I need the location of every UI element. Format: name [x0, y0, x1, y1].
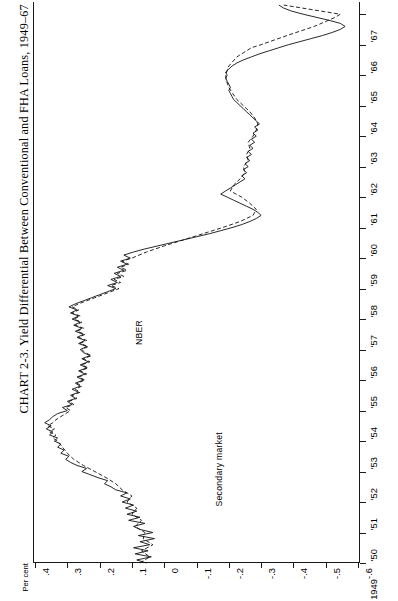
time-axis-tick-label: '50	[368, 549, 381, 561]
value-axis-tick	[197, 563, 198, 568]
value-axis-tick-label: .2	[105, 568, 116, 594]
time-axis-tick-label: '67	[368, 30, 381, 42]
time-axis-tick-label: 1949	[368, 579, 381, 600]
series-line-nber	[45, 5, 345, 563]
value-axis-tick	[229, 563, 230, 568]
time-axis-tick-label: '63	[368, 152, 381, 164]
value-axis-tick	[132, 563, 133, 568]
time-axis-tick	[360, 563, 366, 564]
value-axis-tick	[358, 563, 359, 568]
time-axis-tick	[360, 289, 366, 290]
time-axis-tick-label: '59	[368, 274, 381, 286]
value-axis-tick-label: -.2	[234, 568, 245, 594]
time-axis-tick	[360, 411, 366, 412]
time-axis-tick	[360, 106, 366, 107]
time-axis-tick	[360, 136, 366, 137]
time-axis-tick	[360, 380, 366, 381]
time-axis-tick	[360, 167, 366, 168]
time-axis-tick	[360, 441, 366, 442]
time-axis-tick-label: '64	[368, 122, 381, 134]
value-axis-tick	[261, 563, 262, 568]
time-axis-tick-label: '52	[368, 488, 381, 500]
value-axis-tick	[100, 563, 101, 568]
time-axis-tick-label: '62	[368, 183, 381, 195]
time-axis-tick-label: '56	[368, 366, 381, 378]
time-axis-tick-label: '66	[368, 61, 381, 73]
time-axis-tick-label: '54	[368, 427, 381, 439]
plot-area: .4.3.2.10-.1-.2-.3-.4-.5-.6 1949'50'51'5…	[33, 2, 360, 563]
time-axis-tick	[360, 350, 366, 351]
time-axis-tick	[360, 319, 366, 320]
time-axis-tick	[360, 502, 366, 503]
time-axis-tick	[360, 197, 366, 198]
time-axis-tick	[360, 533, 366, 534]
time-axis-tick-label: '51	[368, 518, 381, 530]
value-axis-tick-label: .3	[72, 568, 83, 594]
time-axis-tick-label: '55	[368, 396, 381, 408]
series-label-nber: NBER	[134, 320, 144, 345]
value-axis-tick	[326, 563, 327, 568]
series-layer	[33, 2, 360, 563]
value-axis-tick-label: 0	[169, 568, 180, 594]
series-label-secondary-market: Secondary market	[214, 432, 224, 507]
value-axis-tick-label: -.4	[298, 568, 309, 594]
time-axis-tick	[360, 14, 366, 15]
value-axis-unit-label: Per cent	[21, 538, 30, 592]
value-axis-tick	[164, 563, 165, 568]
value-axis-tick	[293, 563, 294, 568]
value-axis-tick-label: .1	[137, 568, 148, 594]
value-axis-tick-label: -.1	[202, 568, 213, 594]
value-axis-tick-label: -.3	[266, 568, 277, 594]
time-axis-tick-label: '65	[368, 91, 381, 103]
chart-figure: CHART 2-3. Yield Differential Between Co…	[0, 0, 398, 601]
page-title: CHART 2-3. Yield Differential Between Co…	[17, 0, 32, 414]
series-line-secondary-market	[48, 5, 340, 563]
value-axis-tick	[67, 563, 68, 568]
value-axis-tick-label: -.5	[331, 568, 342, 594]
time-axis-tick	[360, 472, 366, 473]
time-axis-tick-label: '53	[368, 457, 381, 469]
time-axis-tick-label: '61	[368, 213, 381, 225]
time-axis-tick-label: '57	[368, 335, 381, 347]
time-axis-tick	[360, 228, 366, 229]
time-axis-tick-label: '60	[368, 244, 381, 256]
time-axis-tick	[360, 258, 366, 259]
time-axis-tick	[360, 45, 366, 46]
time-axis-tick-label: '58	[368, 305, 381, 317]
value-axis-tick-label: .4	[40, 568, 51, 594]
value-axis-tick	[35, 563, 36, 568]
time-axis-tick	[360, 75, 366, 76]
